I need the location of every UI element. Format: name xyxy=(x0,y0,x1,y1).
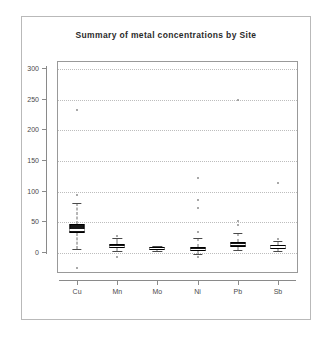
outlier-Sb-0 xyxy=(277,182,279,184)
chart-screenshot: Summary of metal concentrations by Site … xyxy=(0,0,333,338)
cap-upper-Sb xyxy=(273,241,282,242)
outlier-Sb-1 xyxy=(277,238,279,240)
median-Sb xyxy=(270,246,285,247)
boxplot-Sb xyxy=(0,0,333,338)
cap-lower-Sb xyxy=(273,251,282,252)
